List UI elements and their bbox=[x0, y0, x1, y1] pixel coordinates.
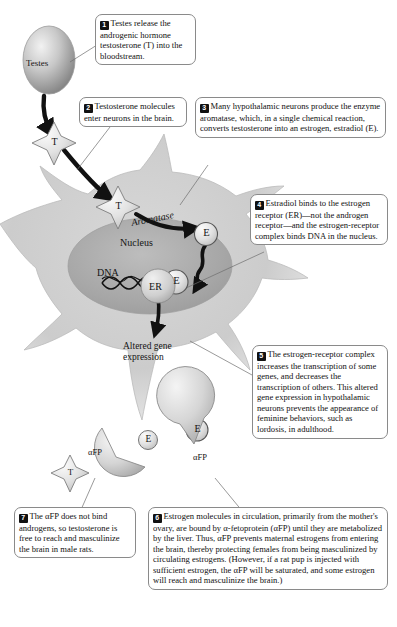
estradiol-label-bound: E bbox=[191, 423, 204, 434]
step-text-3: Many hypothalamic neurons produce the en… bbox=[200, 101, 380, 133]
dna-label: DNA bbox=[97, 267, 119, 278]
estradiol-label-er: E bbox=[170, 275, 183, 286]
step-text-2: Testosterone molecules enter neurons in … bbox=[84, 101, 175, 123]
step-text-4: Estradiol binds to the estrogen receptor… bbox=[255, 198, 379, 241]
estrogen-receptor-label: ER bbox=[146, 281, 165, 292]
step-text-1: Testes release the androgenic hormone te… bbox=[100, 18, 182, 61]
callout-step-4[interactable]: 4Estradiol binds to the estrogen recepto… bbox=[250, 194, 388, 245]
callout-step-5[interactable]: 5The estrogen-receptor complex increases… bbox=[252, 345, 388, 439]
step-number-7: 7 bbox=[19, 514, 28, 523]
step-text-5: The estrogen-receptor complex increases … bbox=[257, 349, 378, 434]
testosterone-label-1: T bbox=[48, 136, 61, 147]
testosterone-label-2: T bbox=[112, 200, 125, 211]
testes-label: Testes bbox=[26, 58, 48, 68]
callout-step-3[interactable]: 3Many hypothalamic neurons produce the e… bbox=[195, 97, 386, 138]
step-number-1: 1 bbox=[100, 21, 109, 30]
step-number-5: 5 bbox=[257, 352, 266, 361]
callout-step-7[interactable]: 7The αFP does not bind androgens, so tes… bbox=[14, 507, 136, 558]
estradiol-label-1: E bbox=[200, 227, 213, 238]
altered-gene-expression-label: Altered gene expression bbox=[123, 341, 172, 363]
figure-canvas: T T T E E E E ER Testes Aromatase Nucleu… bbox=[0, 0, 397, 627]
callout-step-2[interactable]: 2Testosterone molecules enter neurons in… bbox=[79, 97, 187, 127]
step-number-4: 4 bbox=[255, 201, 264, 210]
step-number-6: 6 bbox=[153, 514, 162, 523]
callout-step-1[interactable]: 1Testes release the androgenic hormone t… bbox=[95, 14, 196, 65]
step-text-7: The αFP does not bind androgens, so test… bbox=[19, 511, 120, 554]
afp-unbound-label: αFP bbox=[88, 447, 102, 457]
testosterone-label-3: T bbox=[64, 467, 77, 477]
afp-bound-label: αFP bbox=[193, 452, 207, 462]
step-number-2: 2 bbox=[84, 104, 93, 113]
callout-step-6[interactable]: 6Estrogen molecules in circulation, prim… bbox=[148, 507, 388, 590]
estradiol-label-free: E bbox=[142, 434, 155, 444]
nucleus-label: Nucleus bbox=[120, 237, 153, 248]
leader-step-2 bbox=[77, 127, 110, 170]
step-text-6: Estrogen molecules in circulation, prima… bbox=[153, 511, 382, 585]
step-number-3: 3 bbox=[200, 104, 209, 113]
afp-unbound-shape bbox=[94, 428, 145, 477]
